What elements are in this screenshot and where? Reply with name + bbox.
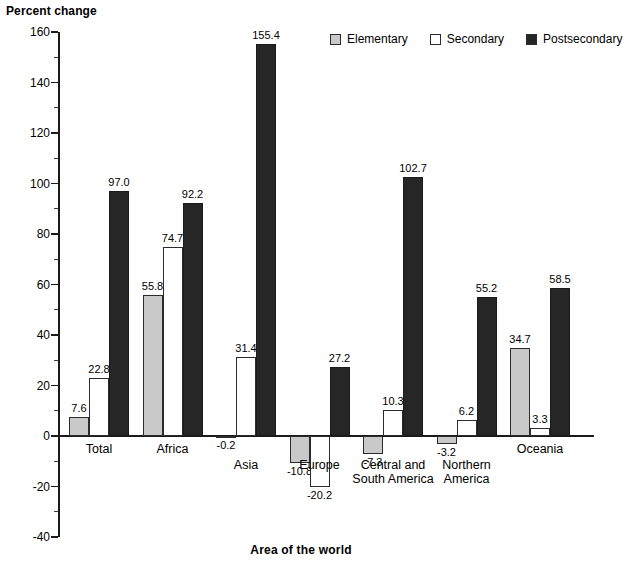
bar-value-label: 92.2 (172, 189, 214, 200)
bar-postsecondary (256, 44, 276, 436)
bar-secondary (236, 357, 256, 436)
y-axis-minor-tick (54, 360, 58, 361)
y-axis-tick-labels: 160140120100806040200-20-40 (0, 32, 50, 537)
y-axis-tick (51, 435, 58, 437)
y-axis-tick-label: 140 (4, 77, 50, 89)
y-axis-minor-tick (54, 57, 58, 58)
bar-value-label: -20.2 (299, 490, 341, 501)
x-axis-category-label: Northern America (412, 458, 522, 486)
bar-secondary (530, 428, 550, 436)
bar-postsecondary (403, 177, 423, 436)
y-axis-minor-tick (54, 107, 58, 108)
plot-area: 7.622.897.0Total55.874.792.2Africa-0.231… (58, 32, 594, 537)
bar-value-label: -0.2 (205, 440, 247, 451)
y-axis-tick-label: -20 (4, 481, 50, 493)
bar-secondary (163, 247, 183, 436)
y-axis-tick (51, 132, 58, 134)
y-axis-tick-label: 80 (4, 228, 50, 240)
bar-value-label: 34.7 (499, 334, 541, 345)
y-axis-tick-label: 120 (4, 127, 50, 139)
y-axis-tick (51, 486, 58, 488)
x-axis-title: Area of the world (0, 543, 602, 557)
y-axis-tick-label: -40 (4, 531, 50, 543)
bar-elementary (363, 436, 383, 454)
y-axis-tick (51, 82, 58, 84)
y-axis-tick (51, 233, 58, 235)
bar-postsecondary (183, 203, 203, 436)
y-axis-tick (51, 284, 58, 286)
y-axis-title: Percent change (6, 4, 97, 18)
bar-elementary (216, 436, 236, 438)
y-axis-tick (51, 183, 58, 185)
y-axis-minor-tick (54, 259, 58, 260)
y-axis-minor-tick (54, 511, 58, 512)
bar-postsecondary (330, 367, 350, 436)
bar-value-label: 55.2 (466, 283, 508, 294)
bar-secondary (89, 378, 109, 436)
y-axis-tick-label: 160 (4, 26, 50, 38)
y-axis-minor-tick (54, 309, 58, 310)
y-axis-tick (51, 31, 58, 33)
y-axis-tick (51, 536, 58, 538)
y-axis-tick (51, 334, 58, 336)
y-axis-tick-label: 20 (4, 380, 50, 392)
y-axis-tick (51, 385, 58, 387)
x-axis-category-label: Oceania (485, 442, 595, 456)
bar-value-label: 58.5 (539, 274, 581, 285)
bar-value-label: 102.7 (392, 163, 434, 174)
bar-elementary (143, 295, 163, 436)
bar-elementary (69, 417, 89, 436)
y-axis-line (58, 32, 60, 537)
y-axis-tick-label: 60 (4, 279, 50, 291)
y-axis-tick-label: 0 (4, 430, 50, 442)
y-axis-minor-tick (54, 158, 58, 159)
bar-elementary (437, 436, 457, 444)
y-axis-tick-label: 40 (4, 329, 50, 341)
bar-postsecondary (109, 191, 129, 436)
bar-postsecondary (477, 297, 497, 436)
bar-value-label: 155.4 (245, 30, 287, 41)
bar-value-label: -3.2 (426, 447, 468, 458)
bar-secondary (457, 420, 477, 436)
y-axis-tick-label: 100 (4, 178, 50, 190)
y-axis-minor-tick (54, 461, 58, 462)
y-axis-minor-tick (54, 208, 58, 209)
bar-secondary (383, 410, 403, 436)
bar-value-label: 27.2 (319, 353, 361, 364)
bar-value-label: 97.0 (98, 177, 140, 188)
bar-postsecondary (550, 288, 570, 436)
